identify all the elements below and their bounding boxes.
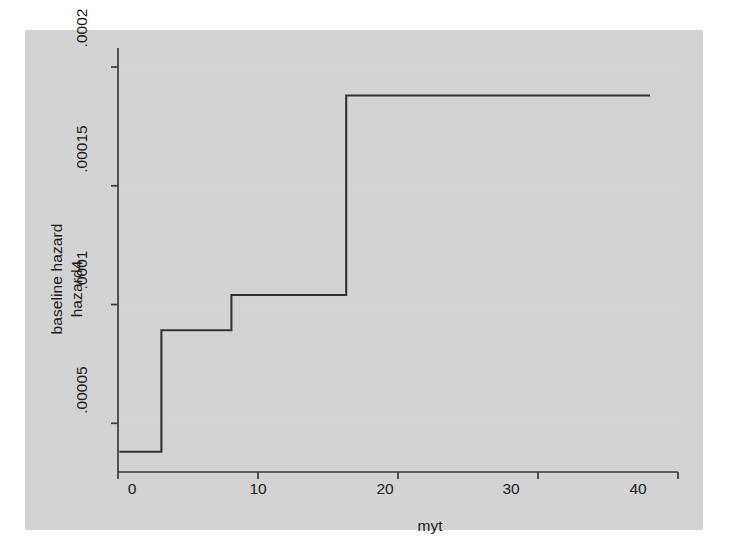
figure-canvas: baseline hazard hazard4 .0002 .00015 .00… — [0, 0, 730, 554]
axis-ticks-group — [111, 67, 678, 479]
data-series-group — [119, 96, 650, 452]
gridlines-group — [118, 67, 678, 423]
graph-background: baseline hazard hazard4 .0002 .00015 .00… — [25, 30, 703, 530]
plot-svg — [25, 30, 703, 530]
baseline-hazard-step-line — [119, 96, 650, 452]
axis-lines-group — [118, 48, 678, 472]
